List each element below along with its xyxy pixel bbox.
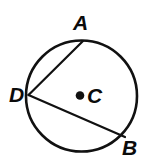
chord-DA: [29, 41, 84, 95]
point-label-a: A: [73, 12, 88, 33]
geometry-figure: A D C B: [0, 0, 155, 165]
point-label-b: B: [122, 137, 137, 158]
chord-DB: [29, 95, 126, 137]
center-point-dot: [76, 91, 85, 100]
point-label-c: C: [87, 85, 102, 106]
point-label-d: D: [9, 84, 24, 105]
